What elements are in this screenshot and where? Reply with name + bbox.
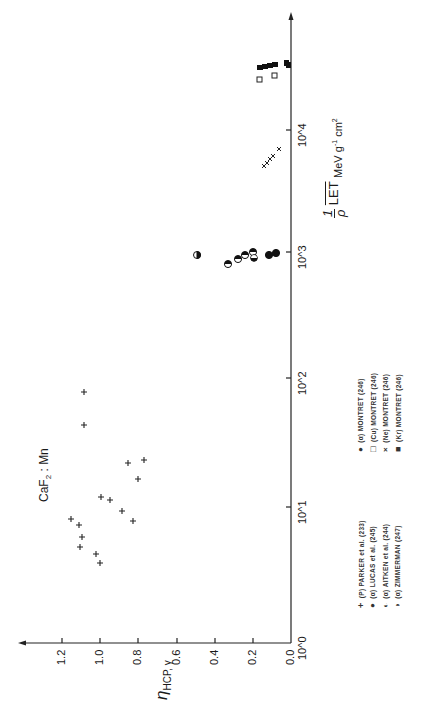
legend-item-parker: + (P) PARKER et al. (233): [356, 520, 366, 608]
y-tick-label: 1.2: [55, 650, 67, 665]
x-label-units: MeV g-1 cm2: [332, 118, 344, 178]
y-tick-label: 0.2: [246, 650, 258, 665]
series-ne: [262, 147, 281, 168]
legend-item-zimmerman: ◑ (α) ZIMMERMAN (247): [393, 525, 402, 608]
x-tick-label: 10^1: [296, 500, 308, 524]
series-alpha-circles: [194, 249, 280, 268]
y-axis-arrow-icon: [18, 641, 26, 646]
y-tick-label: 0.0: [284, 650, 296, 665]
x-tick-label: 10^0: [296, 636, 308, 660]
x-label-denominator: ρ: [335, 209, 347, 218]
x-tick-label: 10^3: [296, 245, 308, 269]
x-tick-label: 10^2: [296, 371, 308, 395]
series-cu: [257, 73, 277, 82]
material-label: CaF2 : Mn: [37, 448, 53, 502]
legend-item-montret-cu: □ (Cu) MONTRET (246): [368, 373, 378, 452]
legend-item-lucas: ● (α) LUCAS et al. (245): [368, 526, 377, 608]
y-tick-label: 0.4: [208, 650, 220, 665]
legend-item-montret-ne: × (Ne) MONTRET (246): [381, 374, 390, 452]
y-tick-label: 1.0: [93, 650, 105, 665]
axes: [18, 12, 294, 646]
x-tick-label: 10^4: [296, 123, 308, 147]
x-axis-label: 1 ρ LET MeV g-1 cm2: [322, 118, 347, 218]
y-axis-label-sub: HCP, γ: [162, 660, 173, 690]
x-label-let: LET: [326, 182, 341, 206]
legend-item-aitken: ◐ (α) AITKEN et al. (244): [381, 524, 390, 608]
series-parker: [68, 389, 147, 566]
legend-item-montret-alpha: ● (α) MONTRET (246): [356, 378, 365, 452]
y-tick-label: 0.8: [131, 650, 143, 665]
legend-item-montret-kr: ■ (Kr) MONTRET (246): [393, 374, 403, 452]
y-axis-label: ηHCP, γ: [152, 660, 173, 700]
x-axis-arrow-icon: [289, 12, 294, 20]
y-axis-label-main: η: [152, 691, 171, 700]
series-kr: [257, 60, 291, 70]
